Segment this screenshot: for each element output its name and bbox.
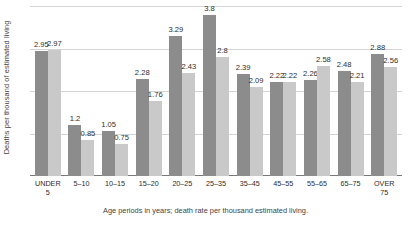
bar-value-label: 2.39 — [236, 63, 251, 73]
x-axis-tick-label: 15–20 — [132, 179, 166, 197]
bar-group: 2.482.21 — [334, 6, 368, 176]
x-axis-tick-label: 55–65 — [300, 179, 334, 197]
bar: 2.26 — [304, 80, 317, 176]
bar-value-label: 2.43 — [181, 62, 196, 72]
bar-value-label: 3.8 — [204, 4, 215, 14]
bar: 2.97 — [48, 50, 61, 176]
bar: 1.2 — [68, 125, 81, 176]
bar: 0.85 — [81, 140, 94, 176]
x-axis-tick-label: 45–55 — [266, 179, 300, 197]
bar-value-label: 2.28 — [135, 68, 150, 78]
bar: 3.8 — [203, 15, 216, 177]
bar: 2.22 — [283, 82, 296, 176]
bar: 2.8 — [216, 57, 229, 176]
bar: 0.75 — [115, 144, 128, 176]
bar: 2.43 — [182, 73, 195, 176]
bar-value-label: 0.75 — [114, 133, 129, 143]
x-axis-tick-label: 35–45 — [233, 179, 267, 197]
bar-value-label: 1.2 — [70, 114, 81, 124]
x-axis-title-text: Age periods in years; death rate per tho… — [103, 206, 308, 215]
bar-value-label: 1.76 — [148, 90, 163, 100]
bar-value-label: 1.05 — [101, 120, 116, 130]
bar: 3.29 — [169, 36, 182, 176]
bar-value-label: 2.09 — [249, 76, 264, 86]
bar-group: 2.222.22 — [266, 6, 300, 176]
bar: 2.28 — [136, 79, 149, 176]
bar-group: 3.292.43 — [166, 6, 200, 176]
bar-group: 1.20.85 — [65, 6, 99, 176]
bar-group: 2.262.58 — [300, 6, 334, 176]
bar: 2.39 — [237, 74, 250, 176]
bar: 2.48 — [338, 71, 351, 176]
bar-value-label: 2.97 — [47, 39, 62, 49]
x-axis-tick-label: 65–75 — [334, 179, 368, 197]
bar-group: 2.281.76 — [132, 6, 166, 176]
x-axis-tick-label: OVER 75 — [367, 179, 401, 197]
x-axis-tick-label: UNDER 5 — [31, 179, 65, 197]
bar: 2.56 — [384, 67, 397, 176]
x-axis-title: Age periods in years; death rate per tho… — [0, 206, 411, 215]
bar: 2.22 — [270, 82, 283, 176]
bar-group: 2.392.09 — [233, 6, 267, 176]
y-axis-title: Deaths per thousand of estimated living — [0, 0, 14, 175]
bar: 1.76 — [149, 101, 162, 176]
bar: 2.95 — [35, 51, 48, 176]
bar-value-label: 2.58 — [316, 55, 331, 65]
x-axis-tick-label: 25–35 — [199, 179, 233, 197]
x-axis-tick-label: 5–10 — [65, 179, 99, 197]
bar: 1.05 — [102, 131, 115, 176]
bar-group: 3.82.8 — [199, 6, 233, 176]
x-axis-tick-label: 10–15 — [98, 179, 132, 197]
bar: 2.21 — [351, 82, 364, 176]
bar-value-label: 2.22 — [282, 71, 297, 81]
bar-chart: Deaths per thousand of estimated living … — [0, 0, 411, 226]
plot-area: 2.952.971.20.851.050.752.281.763.292.433… — [30, 6, 402, 176]
x-axis-tick-labels: UNDER 55–1010–1515–2020–2525–3535–4545–5… — [30, 179, 402, 197]
bar-value-label: 3.29 — [168, 25, 183, 35]
bar-groups: 2.952.971.20.851.050.752.281.763.292.433… — [30, 6, 402, 176]
bar-group: 2.952.97 — [31, 6, 65, 176]
bar-value-label: 2.56 — [383, 56, 398, 66]
bar-value-label: 2.26 — [303, 69, 318, 79]
bar: 2.88 — [371, 54, 384, 176]
bar-value-label: 2.8 — [217, 46, 228, 56]
bar-value-label: 2.88 — [370, 43, 385, 53]
y-axis-title-text: Deaths per thousand of estimated living — [3, 21, 12, 155]
bar-group: 2.882.56 — [367, 6, 401, 176]
bar-value-label: 0.85 — [81, 129, 96, 139]
x-axis-tick-label: 20–25 — [166, 179, 200, 197]
bar-value-label: 2.21 — [350, 71, 365, 81]
bar-group: 1.050.75 — [98, 6, 132, 176]
bar-value-label: 2.48 — [337, 60, 352, 70]
bar: 2.09 — [250, 87, 263, 176]
bar: 2.58 — [317, 66, 330, 176]
